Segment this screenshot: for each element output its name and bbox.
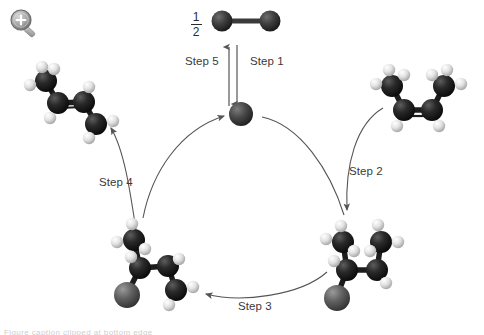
carbon-atom xyxy=(393,99,415,121)
product-alkene-molecule[interactable] xyxy=(8,55,130,147)
hydrogen-atom xyxy=(320,233,332,245)
step-4-label: Step 4 xyxy=(99,176,133,188)
step-2-label: Step 2 xyxy=(349,165,383,177)
hydrogen-atom xyxy=(24,79,36,91)
diagram-canvas: 1 2 xyxy=(0,0,484,335)
hydrogen-atom xyxy=(44,112,56,124)
reactant-alkene-molecule[interactable] xyxy=(360,58,478,148)
carbon-atom xyxy=(421,99,443,121)
metal-atom xyxy=(324,285,350,311)
hydrogen-atom xyxy=(426,69,438,81)
hydrogen-atom xyxy=(383,64,395,76)
hydrogen-atom xyxy=(125,251,137,263)
hydrogen-atom xyxy=(335,220,347,232)
metal-atom xyxy=(114,282,140,308)
hydrogen-atom xyxy=(398,69,410,81)
hydrogen-atom xyxy=(83,81,95,93)
step-3-label: Step 3 xyxy=(238,300,272,312)
hydrogen-atom xyxy=(455,78,467,90)
hydrogen-atom xyxy=(348,245,360,257)
carbon-atom xyxy=(165,279,187,301)
hydrogen-atom xyxy=(36,61,48,73)
clipped-caption: Figure caption clipped at bottom edge xyxy=(0,328,484,335)
hydrogen-atom xyxy=(83,132,95,144)
hydrogen-atom xyxy=(107,115,119,127)
hydrogen-atom xyxy=(187,281,199,293)
hydrogen-atom xyxy=(364,245,376,257)
carbon-atom xyxy=(85,113,107,135)
hydrogen-atom xyxy=(372,219,384,231)
hydrogen-atom xyxy=(139,243,151,255)
metal-alkyl-intermediate-molecule[interactable] xyxy=(305,212,425,317)
hydrogen-atom xyxy=(391,120,403,132)
hydrogen-atom xyxy=(48,63,60,75)
hydrogen-atom xyxy=(173,253,185,265)
hydrogen-atom xyxy=(370,78,382,90)
hydrogen-atom xyxy=(111,236,123,248)
hydrogen-atom xyxy=(163,299,175,311)
clipped-caption-text: Figure caption clipped at bottom edge xyxy=(0,328,484,335)
hydrogen-atom xyxy=(328,255,340,267)
carbon-atom xyxy=(47,92,69,114)
metal-alkyl-intermediate-molecule-2[interactable] xyxy=(100,212,220,317)
hydrogen-atom xyxy=(380,277,392,289)
carbon-atom xyxy=(73,91,95,113)
hydrogen-atom xyxy=(433,120,445,132)
hydrogen-atom xyxy=(392,236,404,248)
cycle-arc-left xyxy=(143,116,224,218)
hydrogen-atom xyxy=(126,218,138,230)
hydrogen-atom xyxy=(441,64,453,76)
cycle-arc-right xyxy=(262,117,344,215)
